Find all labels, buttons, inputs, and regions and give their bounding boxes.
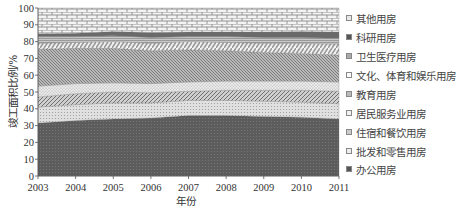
- tick-label: 2011: [329, 182, 350, 193]
- legend-label: 教育用房: [356, 87, 396, 102]
- tick-label: 0: [29, 171, 34, 182]
- legend-label: 居民服务业用房: [356, 106, 426, 121]
- brick-pattern-swatch-icon: [346, 15, 352, 21]
- light-dots-swatch-icon: [346, 110, 352, 116]
- legend-item-culture: 文化、体育和娱乐用房: [346, 67, 456, 83]
- legend-label: 文化、体育和娱乐用房: [356, 68, 456, 83]
- legend-item-wholesale-retail: 批发和零售用房: [346, 143, 426, 159]
- tick-label: 2008: [216, 182, 237, 193]
- legend-label: 批发和零售用房: [356, 144, 426, 159]
- area-layers: [38, 8, 339, 176]
- legend-item-health: 卫生医疗用房: [346, 48, 416, 64]
- legend-item-education: 教育用房: [346, 86, 396, 102]
- tick-label: 90: [24, 19, 35, 30]
- legend-item-research: 科研用房: [346, 29, 396, 45]
- legend-item-other: 其他用房: [346, 10, 396, 26]
- light-dots-2-swatch-icon: [346, 148, 352, 154]
- tick-label: 50: [24, 87, 35, 98]
- tick-label: 40: [24, 103, 35, 114]
- legend-label: 办公用房: [356, 162, 396, 177]
- tick-label: 2003: [28, 182, 49, 193]
- area-series: [38, 116, 339, 177]
- tick-label: 10: [24, 154, 35, 165]
- legend-label: 科研用房: [356, 30, 396, 45]
- area-series: [38, 8, 339, 34]
- tick-label: 2005: [103, 182, 124, 193]
- wave-pattern-swatch-icon: [346, 72, 352, 78]
- x-axis-label: 年份: [176, 193, 196, 208]
- tick-label: 2010: [291, 182, 312, 193]
- legend-item-office: 办公用房: [346, 161, 396, 177]
- diagonal-pattern-swatch-icon: [346, 91, 352, 97]
- tick-label: 80: [24, 36, 35, 47]
- dark-dots-swatch-icon: [346, 166, 352, 172]
- y-axis-label: 竣工面积比例/%: [5, 52, 20, 132]
- tick-label: 30: [24, 120, 35, 131]
- tick-label: 2006: [140, 182, 161, 193]
- tick-label: 70: [24, 53, 35, 64]
- tick-label: 20: [24, 137, 35, 148]
- solid-dark-swatch-icon: [346, 34, 352, 40]
- legend-item-hotel-catering: 住宿和餐饮用房: [346, 124, 426, 140]
- tick-label: 2004: [65, 182, 87, 193]
- tick-label: 60: [24, 70, 35, 81]
- legend-item-resident-services: 居民服务业用房: [346, 105, 426, 121]
- diagonal-medium-swatch-icon: [346, 129, 352, 135]
- area-series: [38, 48, 339, 86]
- tick-label: 100: [18, 3, 34, 14]
- tick-label: 2009: [253, 182, 274, 193]
- legend-label: 其他用房: [356, 11, 396, 26]
- legend-label: 卫生医疗用房: [356, 49, 416, 64]
- legend-label: 住宿和餐饮用房: [356, 125, 426, 140]
- tick-label: 2007: [178, 182, 199, 193]
- horizontal-lines-swatch-icon: [346, 53, 352, 59]
